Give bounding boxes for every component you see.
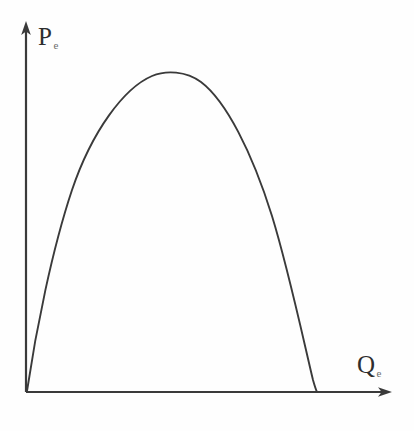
y-axis-label: Pe <box>38 24 59 51</box>
data-curve <box>27 72 317 392</box>
y-axis-label-subscript: e <box>53 39 58 51</box>
plot-canvas <box>0 0 414 431</box>
x-axis-label: Qe <box>357 352 382 379</box>
x-axis-label-main: Q <box>357 351 376 378</box>
x-axis-label-subscript: e <box>377 367 382 379</box>
figure-container: Pe Qe <box>0 0 414 431</box>
y-axis-label-main: P <box>38 23 52 50</box>
